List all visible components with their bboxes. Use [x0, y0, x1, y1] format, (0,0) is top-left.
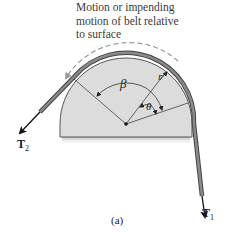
- t1-label: T1: [202, 206, 214, 222]
- drum-shadow: [62, 137, 190, 145]
- theta-label: θ: [146, 100, 152, 112]
- belt-friction-diagram: β θ r T2 T1 (a): [0, 0, 229, 238]
- figure-label: (a): [111, 214, 124, 227]
- drum-center: [124, 122, 128, 126]
- beta-label: β: [119, 76, 127, 91]
- radius-label: r: [158, 70, 163, 82]
- t2-arrow: [20, 112, 40, 133]
- t2-label: T2: [17, 137, 29, 153]
